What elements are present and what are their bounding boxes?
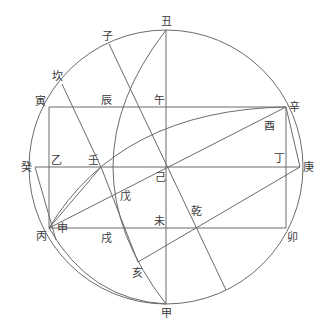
label-chen: 辰 [101,94,112,107]
label-wei: 未 [154,215,165,228]
geometry-diagram: 丑 子 坎 寅 辰 午 辛 酉 癸 乙 壬 己 丁 庚 戊 乾 未 丙 申 戌 … [0,0,331,334]
label-geng: 庚 [303,160,314,174]
label-ren: 壬 [88,154,99,167]
label-kan: 坎 [52,70,63,83]
label-ji: 己 [155,171,166,184]
label-bing: 丙 [36,230,47,243]
label-zi: 子 [102,30,113,43]
label-xin: 辛 [289,100,300,114]
label-xu: 戌 [101,232,112,245]
label-gui: 癸 [21,160,32,174]
label-shen: 申 [57,222,68,235]
label-chou: 丑 [161,15,172,28]
line-bing-ren [49,167,101,228]
label-jia: 甲 [161,307,172,320]
label-yin: 寅 [35,94,46,108]
label-you: 酉 [264,120,275,133]
label-mao: 卯 [287,231,298,244]
label-ding: 丁 [274,152,285,165]
label-hai: 亥 [132,266,143,280]
label-qian: 乾 [191,205,202,218]
label-wu: 午 [154,94,165,107]
label-wu-earth: 戊 [120,190,131,203]
label-yi: 乙 [51,154,62,167]
